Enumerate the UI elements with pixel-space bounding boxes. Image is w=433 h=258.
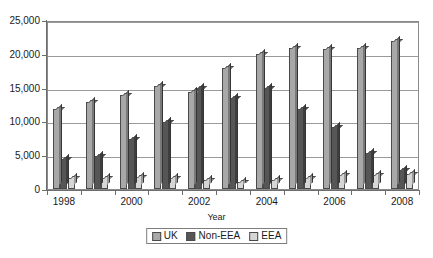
y-tick-mark — [42, 156, 46, 157]
x-tick-mark — [47, 191, 48, 195]
y-tick-label: 15,000 — [9, 84, 40, 94]
legend-item-non-eea[interactable]: Non-EEA — [187, 231, 241, 241]
bar-uk-2006 — [323, 49, 330, 189]
x-tick-label-1998: 1998 — [53, 196, 75, 207]
bar-side-face — [378, 170, 381, 185]
bar-side-face — [404, 165, 407, 185]
bar-side-face — [269, 83, 272, 185]
bar-uk-1999 — [86, 102, 93, 189]
x-axis-title: Year — [0, 212, 433, 222]
bar-side-face — [228, 63, 231, 185]
x-tick-mark — [148, 191, 149, 195]
x-tick-mark — [115, 191, 116, 195]
legend-swatch-icon — [152, 232, 161, 241]
x-tick-mark — [419, 191, 420, 195]
plot-area — [47, 21, 419, 190]
bar-side-face — [134, 134, 137, 185]
x-tick-mark — [250, 191, 251, 195]
y-tick-label: 25,000 — [9, 16, 40, 26]
bar-uk-2008 — [391, 41, 398, 189]
x-tick-mark — [284, 191, 285, 195]
bar-side-face — [66, 154, 69, 185]
bar-eea-2003 — [237, 182, 244, 189]
bar-group-2002 — [188, 20, 211, 189]
x-axis-line — [46, 190, 420, 191]
bar-group-2004 — [256, 20, 279, 189]
legend-swatch-icon — [187, 232, 196, 241]
y-tick-label: 10,000 — [9, 117, 40, 127]
legend-swatch-icon — [249, 232, 258, 241]
x-tick-mark — [216, 191, 217, 195]
bar-group-2007 — [357, 20, 380, 189]
y-tick-mark — [42, 21, 46, 22]
bar-side-face — [310, 173, 313, 185]
bar-side-face — [243, 177, 246, 185]
bar-chart: 05,00010,00015,00020,00025,000 199820002… — [0, 0, 433, 258]
legend-label: UK — [164, 231, 178, 241]
x-tick-label-2000: 2000 — [120, 196, 142, 207]
y-tick-mark — [42, 122, 46, 123]
bar-side-face — [235, 93, 238, 185]
bar-side-face — [397, 36, 400, 185]
bar-side-face — [344, 170, 347, 185]
legend-label: Non-EEA — [199, 231, 241, 241]
bar-side-face — [201, 83, 204, 185]
y-tick-mark — [42, 55, 46, 56]
x-tick-label-2004: 2004 — [256, 196, 278, 207]
bar-side-face — [126, 90, 129, 185]
x-tick-label-2002: 2002 — [188, 196, 210, 207]
bar-side-face — [74, 173, 77, 185]
bar-group-2001 — [154, 20, 177, 189]
bar-side-face — [209, 175, 212, 185]
bar-side-face — [412, 169, 415, 185]
bar-non-eea-1999 — [94, 156, 101, 189]
bar-uk-2000 — [120, 95, 127, 189]
bar-uk-2002 — [188, 92, 195, 189]
y-tick-mark — [42, 89, 46, 90]
bar-side-face — [175, 173, 178, 185]
bar-uk-2004 — [256, 54, 263, 189]
bar-side-face — [329, 44, 332, 185]
bar-uk-2001 — [154, 86, 161, 189]
bar-group-2000 — [120, 20, 143, 189]
bar-group-1998 — [53, 20, 76, 189]
bar-side-face — [337, 122, 340, 185]
y-tick-label: 0 — [34, 185, 40, 195]
chart-legend: UKNon-EEAEEA — [146, 228, 288, 244]
bar-group-2005 — [289, 20, 312, 189]
bar-side-face — [141, 172, 144, 185]
bar-uk-2007 — [357, 48, 364, 189]
bar-side-face — [168, 117, 171, 185]
bar-side-face — [295, 43, 298, 185]
bar-side-face — [277, 175, 280, 185]
x-tick-label-2006: 2006 — [323, 196, 345, 207]
bar-side-face — [100, 151, 103, 185]
y-tick-mark — [42, 190, 46, 191]
bar-uk-1998 — [53, 109, 60, 189]
legend-label: EEA — [261, 231, 281, 241]
x-tick-mark — [385, 191, 386, 195]
bar-group-1999 — [86, 20, 109, 189]
bar-side-face — [194, 87, 197, 185]
bar-side-face — [303, 104, 306, 185]
y-tick-label: 20,000 — [9, 50, 40, 60]
y-tick-label: 5,000 — [15, 151, 40, 161]
legend-item-uk[interactable]: UK — [152, 231, 178, 241]
y-axis-line — [46, 20, 47, 191]
bar-side-face — [371, 148, 374, 185]
bar-group-2006 — [323, 20, 346, 189]
bar-side-face — [262, 49, 265, 185]
bar-uk-2003 — [222, 68, 229, 189]
bar-side-face — [160, 81, 163, 185]
x-tick-mark — [182, 191, 183, 195]
x-tick-mark — [318, 191, 319, 195]
legend-item-eea[interactable]: EEA — [249, 231, 281, 241]
x-tick-mark — [351, 191, 352, 195]
x-tick-mark — [81, 191, 82, 195]
bar-side-face — [59, 104, 62, 185]
x-tick-label-2008: 2008 — [391, 196, 413, 207]
bar-group-2003 — [222, 20, 245, 189]
bar-uk-2005 — [289, 48, 296, 189]
bar-side-face — [363, 43, 366, 185]
bar-group-2008 — [391, 20, 414, 189]
